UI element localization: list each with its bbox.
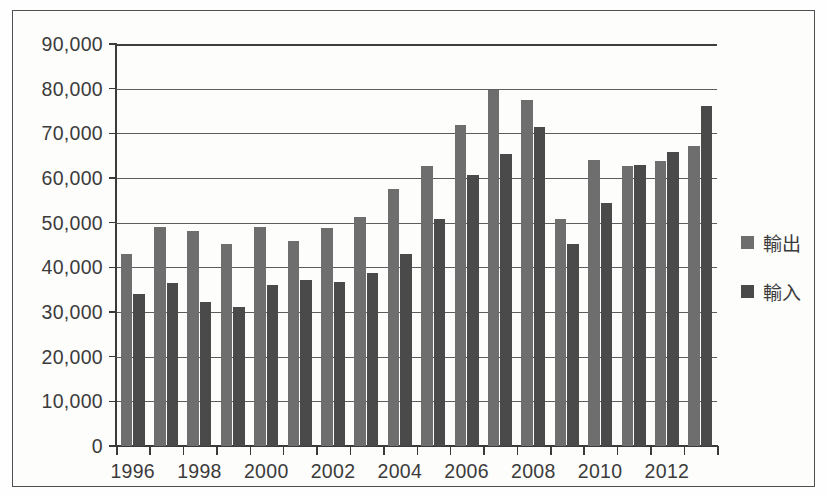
y-tick-30000 [109,311,117,313]
bar-import-2008 [534,127,546,446]
x-tick-2001 [283,446,285,455]
legend-item-import[interactable]: 輸入 [741,278,821,305]
bar-export-2002 [321,228,333,446]
x-axis-label-1996: 1996 [110,460,155,483]
y-axis-label: 30,000 [42,301,103,324]
bar-import-2000 [267,285,279,446]
y-tick-50000 [109,222,117,224]
x-tick-1999 [216,446,218,455]
bar-import-2007 [500,154,512,446]
bar-import-2012 [667,152,679,446]
x-axis-label-2002: 2002 [311,460,356,483]
y-axis-label: 60,000 [42,167,103,190]
x-tick-2008 [517,446,519,455]
chart-legend: 輸出輸入 [741,229,821,327]
bar-export-2004 [388,189,400,446]
y-axis-label: 20,000 [42,345,103,368]
gridline-80000 [116,89,717,90]
x-axis-label-1998: 1998 [177,460,222,483]
x-axis-label-2010: 2010 [578,460,623,483]
y-tick-10000 [109,401,117,403]
bar-export-1999 [221,244,233,446]
x-axis-label-2000: 2000 [244,460,289,483]
bar-export-1996 [121,254,133,446]
bar-import-1998 [200,302,212,446]
y-axis-label: 40,000 [42,256,103,279]
y-axis-label: 90,000 [42,33,103,56]
bar-import-2002 [334,282,346,446]
legend-label: 輸出 [763,229,801,256]
gridline-70000 [116,133,717,134]
x-tick-2012 [650,446,652,455]
y-axis-label: 10,000 [42,390,103,413]
bar-export-2003 [354,217,366,446]
bar-import-2010 [601,203,613,446]
bar-export-2006 [455,125,467,446]
bar-import-2005 [434,219,446,446]
bar-export-2013 [688,146,700,446]
x-tick-2005 [417,446,419,455]
y-axis-label: 0 [92,435,103,458]
bar-export-2005 [421,166,433,447]
bar-export-2009 [555,219,567,446]
gridline-90000 [116,44,717,46]
x-tick-2004 [383,446,385,455]
x-tick-2007 [483,446,485,455]
legend-swatch-icon [741,236,754,249]
bar-export-2011 [622,166,634,446]
bar-import-2013 [701,106,713,446]
bar-export-2001 [288,241,300,446]
x-tick-2002 [316,446,318,455]
bar-import-1997 [167,283,179,446]
x-tick-1997 [149,446,151,455]
bar-import-1996 [133,294,145,446]
bar-import-2009 [567,244,579,446]
y-axis-line [115,44,117,446]
y-tick-90000 [109,43,117,45]
bar-import-2001 [300,280,312,446]
chart-page: 010,00020,00030,00040,00050,00060,00070,… [0,0,827,498]
y-axis-label: 80,000 [42,77,103,100]
x-tick-2011 [617,446,619,455]
x-tick-end [717,446,719,455]
legend-label: 輸入 [763,278,801,305]
bar-export-2008 [521,100,533,446]
legend-swatch-icon [741,285,754,298]
plot-area: 010,00020,00030,00040,00050,00060,00070,… [116,44,717,446]
y-tick-60000 [109,177,117,179]
y-tick-40000 [109,267,117,269]
x-axis-label-2008: 2008 [511,460,556,483]
bar-import-2006 [467,175,479,446]
bar-export-2010 [588,160,600,446]
bar-import-2003 [367,273,379,446]
bar-import-2011 [634,165,646,446]
x-tick-2000 [250,446,252,455]
x-axis-label-2004: 2004 [378,460,423,483]
y-tick-80000 [109,88,117,90]
x-tick-2009 [550,446,552,455]
legend-item-export[interactable]: 輸出 [741,229,821,256]
bar-import-1999 [233,307,245,446]
bar-export-1997 [154,227,166,446]
x-tick-2006 [450,446,452,455]
y-axis-label: 70,000 [42,122,103,145]
bar-import-2004 [400,254,412,446]
bar-export-2000 [254,227,266,446]
bar-export-2012 [655,161,667,446]
x-axis-label-2012: 2012 [645,460,690,483]
x-tick-2010 [583,446,585,455]
y-tick-70000 [109,133,117,135]
x-tick-2013 [684,446,686,455]
x-tick-1996 [116,446,118,455]
chart-frame: 010,00020,00030,00040,00050,00060,00070,… [12,10,815,487]
x-tick-2003 [350,446,352,455]
x-axis-label-2006: 2006 [444,460,489,483]
bar-export-2007 [488,90,500,446]
y-tick-20000 [109,356,117,358]
x-tick-1998 [183,446,185,455]
bar-export-1998 [187,231,199,446]
y-axis-label: 50,000 [42,211,103,234]
